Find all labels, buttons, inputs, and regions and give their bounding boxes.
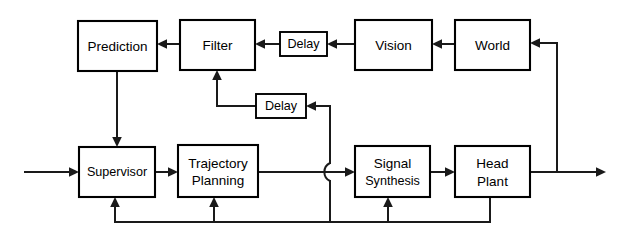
- arrowhead-efference-to-delay-mid: [306, 101, 316, 111]
- block-head-plant-rect: [455, 146, 530, 197]
- block-head-plant-label-line2: Plant: [477, 174, 508, 189]
- wire-delay-mid-to-filter: [217, 76, 256, 106]
- block-world-label: World: [475, 38, 510, 53]
- arrowhead-delay-top-to-filter: [255, 39, 265, 49]
- block-prediction-label: Prediction: [87, 39, 147, 54]
- wire-efference-upper: [312, 106, 330, 163]
- block-prediction[interactable]: Prediction: [78, 21, 157, 71]
- arrowhead-to-world: [530, 38, 540, 48]
- arrowhead-filter-to-prediction: [157, 39, 167, 49]
- block-supervisor-label: Supervisor: [87, 165, 147, 179]
- block-signal-synthesis-label-line1: Signal: [374, 156, 412, 171]
- block-vision[interactable]: Vision: [355, 20, 432, 70]
- arrowhead-feedback-to-signal: [383, 197, 393, 207]
- block-supervisor[interactable]: Supervisor: [79, 147, 155, 197]
- block-delay-top-label: Delay: [287, 37, 320, 51]
- arrowhead-feedback-to-supervisor: [110, 197, 120, 207]
- block-world[interactable]: World: [455, 20, 530, 70]
- block-trajectory-planning-label-line1: Trajectory: [188, 156, 248, 171]
- arrowhead-prediction-to-supervisor: [112, 137, 122, 147]
- wire-head-plant-to-world: [536, 43, 557, 172]
- arrowhead-feedback-to-trajectory: [209, 197, 219, 207]
- block-signal-synthesis-label-line2: Synthesis: [365, 174, 420, 188]
- block-diagram-canvas: Prediction Filter Delay Vision World Del…: [0, 0, 629, 237]
- arrowhead-delay-mid-to-filter: [212, 70, 222, 80]
- block-delay-mid[interactable]: Delay: [256, 94, 306, 118]
- block-trajectory-planning[interactable]: Trajectory Planning: [178, 145, 258, 197]
- block-filter[interactable]: Filter: [180, 20, 255, 70]
- diagram-svg: Prediction Filter Delay Vision World Del…: [0, 0, 629, 237]
- arrowhead-vision-to-delay-top: [327, 39, 337, 49]
- arrowhead-head-plant-to-output: [596, 167, 606, 177]
- block-head-plant-label-line1: Head: [476, 156, 508, 171]
- arrowhead-trajectory-to-signal: [345, 167, 355, 177]
- arrowhead-input-to-supervisor: [69, 167, 79, 177]
- arrowhead-signal-to-head-plant: [445, 167, 455, 177]
- block-vision-label: Vision: [375, 38, 412, 53]
- block-signal-synthesis[interactable]: Signal Synthesis: [355, 146, 430, 197]
- arrowhead-world-to-vision: [432, 39, 442, 49]
- arrowhead-supervisor-to-trajectory: [168, 167, 178, 177]
- block-delay-mid-label: Delay: [265, 99, 298, 113]
- block-trajectory-planning-rect: [178, 145, 258, 197]
- block-delay-top[interactable]: Delay: [280, 32, 327, 56]
- block-signal-synthesis-rect: [355, 146, 430, 197]
- block-filter-label: Filter: [203, 38, 234, 53]
- wire-head-plant-to-feedback-bus: [115, 197, 490, 222]
- block-head-plant[interactable]: Head Plant: [455, 146, 530, 197]
- block-trajectory-planning-label-line2: Planning: [192, 173, 245, 188]
